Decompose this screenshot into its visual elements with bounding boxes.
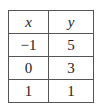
cell-x: −1 bbox=[9, 34, 49, 57]
header-x: x bbox=[9, 11, 49, 34]
table-row: −1 5 bbox=[9, 34, 94, 57]
cell-y: 3 bbox=[49, 57, 94, 80]
cell-y: 1 bbox=[49, 80, 94, 103]
cell-x: 0 bbox=[9, 57, 49, 80]
table-row: 1 1 bbox=[9, 80, 94, 103]
table-row: 0 3 bbox=[9, 57, 94, 80]
table-header-row: x y bbox=[9, 11, 94, 34]
xy-value-table: x y −1 5 0 3 1 1 bbox=[8, 10, 94, 103]
cell-x: 1 bbox=[9, 80, 49, 103]
header-y: y bbox=[49, 11, 94, 34]
cell-y: 5 bbox=[49, 34, 94, 57]
